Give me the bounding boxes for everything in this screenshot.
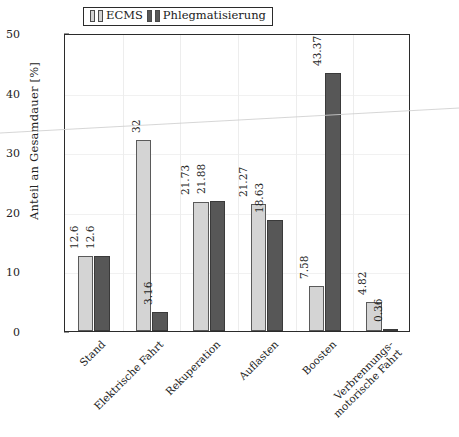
legend-label-phlegmatisierung: Phlegmatisierung: [163, 10, 266, 22]
x-category-label: Stand: [77, 338, 108, 369]
x-category-label: Auflasten: [236, 338, 280, 382]
bar-value-label: 7.58: [298, 255, 310, 278]
legend-entry-ecms: ECMS: [90, 10, 143, 22]
x-category-line: Auflasten: [236, 338, 280, 382]
gridline: [65, 154, 409, 155]
bar-value-label: 12.6: [84, 226, 96, 249]
bar: 7.58: [309, 286, 325, 331]
group-separator: [296, 35, 297, 331]
bar-value-label: 43.37: [311, 35, 323, 65]
y-tick-label: 0: [0, 326, 20, 339]
bar-value-label: 12.6: [67, 226, 79, 249]
bar-value-label: 0.36: [372, 298, 384, 321]
x-category-label: Boosten: [299, 338, 338, 377]
x-category-line: Rekuperation: [163, 338, 222, 397]
bar: 21.88: [210, 201, 226, 331]
x-category-line: Stand: [77, 338, 108, 369]
bar: 21.27: [251, 204, 267, 331]
y-axis-title: Anteil an Gesamdauer [%]: [27, 11, 41, 271]
y-tick-label: 30: [0, 147, 20, 160]
bar-value-label: 18.63: [254, 183, 266, 213]
bar: 12.6: [94, 256, 110, 331]
gridline: [65, 95, 409, 96]
light-gray-swatch-icon: [98, 10, 103, 22]
group-separator: [123, 35, 124, 331]
light-gray-swatch-icon: [90, 10, 95, 22]
bar: 43.37: [325, 73, 341, 331]
x-category-line: Boosten: [299, 338, 338, 377]
gridline: [65, 214, 409, 215]
dark-gray-swatch-icon: [147, 10, 152, 22]
y-tick-label: 20: [0, 206, 20, 219]
bar: 0.36: [383, 329, 399, 331]
plot-area: 12.612.6323.1621.7321.8821.2718.637.5843…: [64, 34, 410, 332]
bar-value-label: 32: [130, 120, 142, 133]
bar-value-label: 3.16: [142, 282, 154, 305]
dark-gray-swatch-icon: [155, 10, 160, 22]
bar-value-label: 21.88: [196, 164, 208, 194]
bar: 12.6: [78, 256, 94, 331]
bar: 18.63: [267, 220, 283, 331]
bar-value-label: 21.73: [179, 164, 191, 194]
chart-legend: ECMS Phlegmatisierung: [83, 7, 273, 26]
group-separator: [353, 35, 354, 331]
bar-value-label: 4.82: [356, 272, 368, 295]
x-category-label: Rekuperation: [163, 338, 223, 398]
legend-label-ecms: ECMS: [106, 10, 143, 22]
legend-entry-phlegmatisierung: Phlegmatisierung: [147, 10, 266, 22]
bar: 21.73: [193, 202, 209, 332]
bar: 3.16: [152, 312, 168, 331]
y-tick-label: 10: [0, 266, 20, 279]
bar-value-label: 21.27: [237, 167, 249, 197]
y-tick-label: 50: [0, 28, 20, 41]
y-tick-label: 40: [0, 87, 20, 100]
